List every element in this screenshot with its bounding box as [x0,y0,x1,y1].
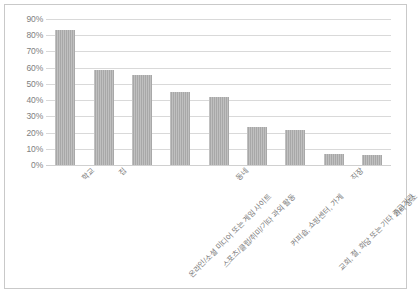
x-axis-category-label: 동네 [233,165,251,183]
bar [285,130,305,165]
y-axis-tick-label: 60% [27,63,43,73]
y-axis-tick-label: 30% [27,111,43,121]
y-axis-tick-labels: 0%10%20%30%40%50%60%70%80%90% [13,19,46,165]
x-axis-category-labels: 학교집온라인/소셜 미디어 또는 게임 사이트스포츠/클럽/취미/기타 과외 활… [46,165,391,290]
bar [132,75,152,165]
x-axis-category-label: 학교 [79,165,97,183]
bar [247,127,267,165]
bar-series [46,19,391,165]
bar [209,97,229,165]
y-axis-tick-label: 20% [27,128,43,138]
x-axis-category-label: 직장 [348,165,366,183]
y-axis-tick-label: 40% [27,95,43,105]
y-axis-tick-label: 0% [31,160,43,170]
bar [324,154,344,165]
y-axis-tick-label: 70% [27,46,43,56]
x-axis-category-label: 집 [116,165,129,178]
chart-frame: 0%10%20%30%40%50%60%70%80%90% 학교집온라인/소셜 … [4,4,407,289]
bar [362,155,382,165]
y-axis-tick-label: 80% [27,30,43,40]
y-axis-tick-label: 50% [27,79,43,89]
y-axis-tick-label: 90% [27,14,43,24]
bar [94,70,114,165]
bar [170,92,190,165]
y-axis-tick-label: 10% [27,144,43,154]
bar [55,30,75,165]
